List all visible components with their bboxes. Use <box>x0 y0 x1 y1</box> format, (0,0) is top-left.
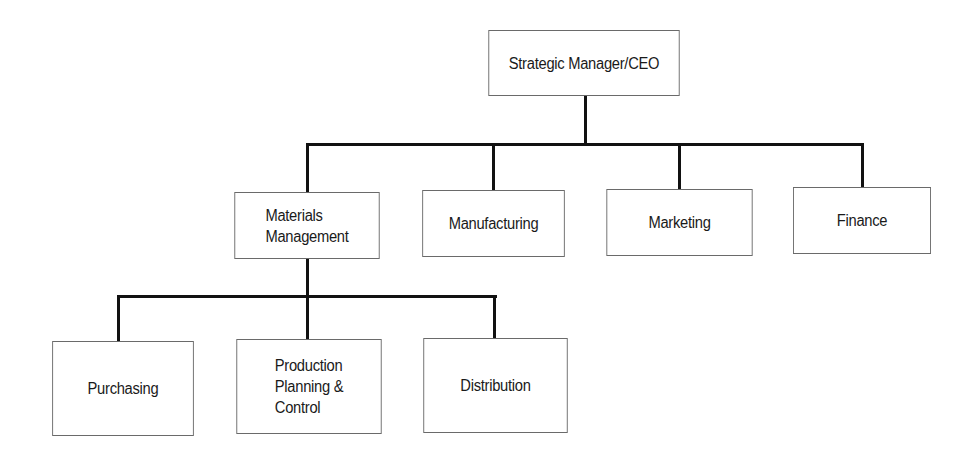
node-distribution: Distribution <box>423 338 567 433</box>
connector-to-manufacturing <box>492 143 495 191</box>
connector-to-distribution <box>493 295 496 339</box>
node-finance: Finance <box>793 187 931 254</box>
node-ceo: Strategic Manager/CEO <box>488 30 679 96</box>
node-production-planning-control-label: Production Planning & Control <box>275 355 343 418</box>
connector-ceo-down <box>584 95 587 145</box>
node-ceo-label: Strategic Manager/CEO <box>509 53 659 74</box>
connector-to-purchasing <box>117 295 120 342</box>
node-distribution-label: Distribution <box>460 375 530 396</box>
node-marketing: Marketing <box>606 189 752 256</box>
node-purchasing: Purchasing <box>52 341 194 436</box>
connector-to-finance <box>861 143 864 189</box>
connector-level1-bus <box>306 143 864 146</box>
node-purchasing-label: Purchasing <box>88 378 159 399</box>
node-production-planning-control: Production Planning & Control <box>236 339 381 434</box>
node-materials-management-label: Materials Management <box>265 205 348 247</box>
connector-to-production <box>306 295 309 340</box>
node-finance-label: Finance <box>837 210 887 231</box>
node-marketing-label: Marketing <box>648 212 710 233</box>
node-materials-management: Materials Management <box>234 192 379 259</box>
node-manufacturing-label: Manufacturing <box>449 213 539 234</box>
connector-materials-down <box>306 258 309 298</box>
connector-to-materials <box>306 143 309 193</box>
node-manufacturing: Manufacturing <box>422 190 565 257</box>
connector-to-marketing <box>678 143 681 191</box>
